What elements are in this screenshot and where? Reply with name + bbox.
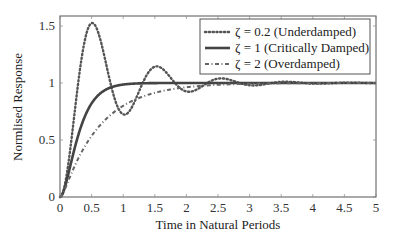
- legend-label-underdamped: ζ = 0.2 (Underdamped): [235, 24, 356, 39]
- x-axis-label: Time in Natural Periods: [156, 217, 281, 232]
- y-tick-label: 1: [49, 75, 56, 90]
- y-tick-label: 0.5: [39, 132, 55, 147]
- series-line-zeta-1: [60, 83, 376, 197]
- x-tick-label: 3: [246, 200, 253, 215]
- x-tick-label: 1.5: [147, 200, 163, 215]
- x-tick-label: 0: [57, 200, 64, 215]
- x-tick-label: 5: [373, 200, 380, 215]
- legend-label-overdamped: ζ = 2 (Overdamped): [235, 56, 340, 71]
- x-tick-label: 2.5: [210, 200, 226, 215]
- y-axis-label: Normlised Response: [10, 53, 25, 161]
- legend-label-critically-damped: ζ = 1 (Critically Damped): [235, 40, 369, 55]
- legend: ζ = 0.2 (Underdamped) ζ = 1 (Critically …: [200, 19, 370, 74]
- step-response-chart: 00.511.522.533.544.5500.511.5 Time in Na…: [0, 0, 393, 241]
- x-tick-label: 1: [120, 200, 127, 215]
- x-tick-label: 3.5: [273, 200, 289, 215]
- y-tick-label: 1.5: [39, 18, 55, 33]
- x-tick-label: 4.5: [336, 200, 352, 215]
- series-line-zeta-2: [60, 83, 376, 197]
- x-tick-label: 4: [310, 200, 317, 215]
- y-tick-label: 0: [49, 189, 56, 204]
- x-tick-label: 2: [183, 200, 190, 215]
- x-tick-label: 0.5: [83, 200, 99, 215]
